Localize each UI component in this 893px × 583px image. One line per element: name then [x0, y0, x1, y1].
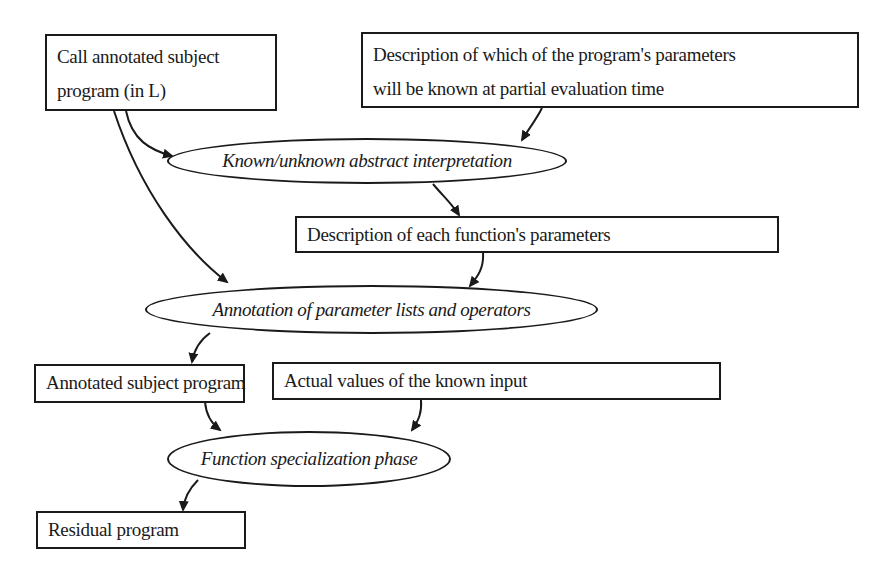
edge-call-to-abstract — [126, 111, 172, 156]
edge-spec-to-residual — [183, 480, 198, 510]
edge-desc-to-abstract — [522, 108, 542, 140]
node-residual-program: Residual program — [36, 511, 246, 549]
node-label-line: will be known at partial evaluation time — [373, 72, 847, 106]
node-label: Residual program — [48, 513, 234, 547]
edge-annotatedprog-to-spec — [205, 402, 220, 430]
edge-annotation-to-annotatedprog — [192, 333, 210, 362]
node-annotated-subject-program: Annotated subject program — [34, 364, 245, 403]
node-label-line: Description of which of the program's pa… — [373, 38, 847, 72]
node-label: Annotated subject program — [46, 366, 233, 400]
node-call-annotated-program: Call annotated subject program (in L) — [45, 34, 277, 111]
node-label-line: Call annotated subject — [57, 40, 265, 74]
node-label: Annotation of parameter lists and operat… — [213, 299, 531, 321]
node-label-line: program (in L) — [57, 74, 265, 108]
edge-abstract-to-funcparams — [433, 184, 459, 215]
node-annotation: Annotation of parameter lists and operat… — [145, 285, 598, 334]
node-label: Known/unknown abstract interpretation — [222, 150, 512, 172]
node-function-parameters: Description of each function's parameter… — [295, 216, 779, 253]
node-actual-values: Actual values of the known input — [272, 362, 721, 400]
node-function-specialization: Function specialization phase — [167, 431, 451, 487]
edge-call-to-annotation — [114, 111, 227, 282]
edge-actualvalues-to-spec — [412, 400, 421, 430]
node-label: Description of each function's parameter… — [307, 218, 767, 251]
node-abstract-interpretation: Known/unknown abstract interpretation — [167, 138, 567, 184]
edge-funcparams-to-annotation — [470, 253, 483, 286]
node-label: Actual values of the known input — [284, 364, 709, 398]
node-label: Function specialization phase — [201, 448, 417, 470]
node-parameter-description: Description of which of the program's pa… — [361, 32, 859, 108]
